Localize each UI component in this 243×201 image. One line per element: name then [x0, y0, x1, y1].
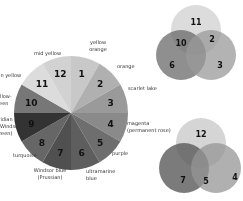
- label-7b: (Prussian): [38, 174, 63, 180]
- label-8: turquoise: [13, 152, 37, 159]
- label-4b: (permanent rose): [127, 127, 171, 134]
- wheel-segment-number-8: 8: [39, 138, 45, 148]
- color-wheel-diagram: 123456789101112 yellow orange orange sca…: [0, 0, 243, 201]
- label-3: scarlet lake: [128, 85, 157, 91]
- wheel-segment-number-7: 7: [57, 148, 63, 158]
- venn-top-num-11: 11: [190, 18, 202, 27]
- wheel-segment-number-12: 12: [54, 69, 67, 79]
- wheel-segment-number-4: 4: [108, 119, 114, 129]
- label-10b: green: [0, 100, 8, 107]
- label-1b: orange: [89, 46, 107, 53]
- wheel-segment-number-11: 11: [36, 79, 49, 89]
- label-9c: green): [0, 130, 12, 137]
- label-7a: Windsor blue: [34, 167, 67, 173]
- label-2: orange: [117, 63, 135, 70]
- wheel-segment-number-6: 6: [78, 148, 84, 158]
- wheel-segment-number-9: 9: [28, 119, 34, 129]
- venn-bottom-circle-4: [191, 143, 241, 193]
- venn-top-num-6: 6: [169, 61, 175, 70]
- wheel-segment-number-10: 10: [25, 98, 38, 108]
- venn-top-num-3: 3: [217, 61, 223, 70]
- wheel-segment-number-3: 3: [108, 98, 114, 108]
- wheel-segment-number-2: 2: [97, 79, 103, 89]
- venn-bottom-num-4: 4: [232, 173, 238, 182]
- venn-bottom-num-12: 12: [195, 130, 206, 139]
- label-4a: magenta: [127, 120, 149, 127]
- venn-bottom-num-5: 5: [203, 177, 209, 186]
- venn-top-num-2: 2: [209, 35, 215, 44]
- label-10a: yellow-: [0, 93, 12, 100]
- venn-bottom-num-7: 7: [180, 176, 186, 185]
- label-9b: (Windsor: [0, 123, 21, 129]
- label-11: lemon yellow: [0, 72, 21, 79]
- label-5: purple: [112, 150, 128, 157]
- wheel-segment-number-5: 5: [97, 138, 103, 148]
- label-6b: blue: [86, 175, 97, 181]
- venn-top-num-10: 10: [175, 39, 187, 48]
- label-1a: yellow: [90, 39, 106, 46]
- label-9a: viridian: [0, 116, 13, 122]
- label-6a: ultramarine: [86, 168, 115, 174]
- label-12: mid yellow: [34, 50, 61, 57]
- wheel-segment-number-1: 1: [78, 69, 84, 79]
- venn-diagram-top: [156, 5, 236, 80]
